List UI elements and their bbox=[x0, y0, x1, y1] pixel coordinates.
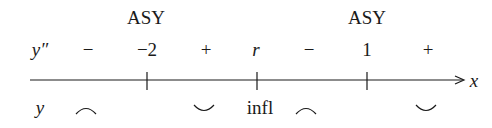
concave-down-icon bbox=[296, 109, 316, 115]
function-label: y bbox=[36, 98, 44, 117]
x-axis-label: x bbox=[470, 71, 478, 90]
concave-up-icon bbox=[194, 105, 214, 111]
inflection-label: infl bbox=[247, 98, 273, 117]
concave-down-icon bbox=[76, 109, 96, 115]
concave-up-icon bbox=[416, 105, 436, 111]
